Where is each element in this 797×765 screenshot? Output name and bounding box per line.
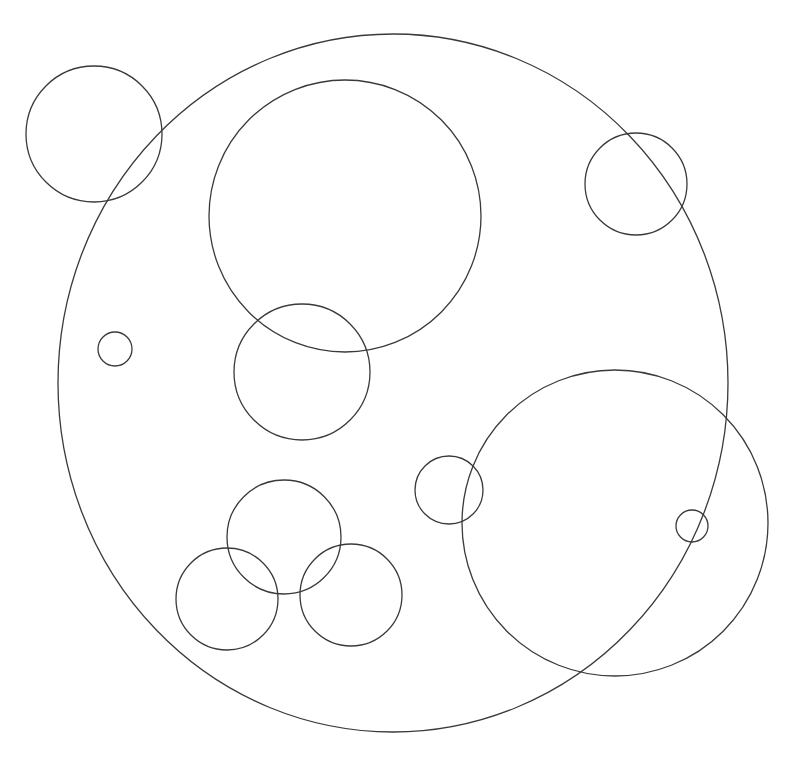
circle-upper-large — [209, 80, 481, 352]
circle-upper-right-small — [585, 133, 687, 235]
circle-cluster-top — [227, 480, 341, 594]
outer-circle — [58, 34, 728, 732]
circle-diagram — [0, 0, 797, 765]
circle-left-tiny — [98, 332, 132, 366]
circle-middle — [234, 304, 370, 440]
circle-top-left — [26, 66, 162, 202]
circle-lower-right-large — [462, 370, 768, 676]
circle-cluster-left — [176, 548, 278, 650]
circle-right-tiny — [676, 510, 708, 542]
circle-cluster-right — [300, 544, 402, 646]
